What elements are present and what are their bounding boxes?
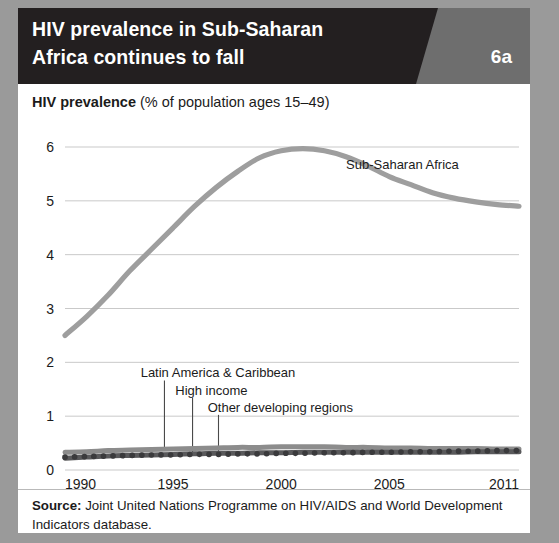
y-tick-label: 5 bbox=[46, 193, 54, 209]
figure-card: HIV prevalence in Sub-Saharan Africa con… bbox=[18, 8, 530, 533]
series-label: Other developing regions bbox=[208, 400, 354, 415]
chart-plot-area: 0123456 19901995200020052011 Sub-Saharan… bbox=[18, 8, 530, 533]
source-text: Joint United Nations Programme on HIV/AI… bbox=[32, 498, 503, 532]
y-tick-label: 3 bbox=[46, 301, 54, 317]
chart-series-labels: Sub-Saharan AfricaOther developing regio… bbox=[141, 157, 460, 415]
y-tick-label: 4 bbox=[46, 247, 54, 263]
y-tick-label: 0 bbox=[46, 462, 54, 478]
series-line bbox=[65, 149, 519, 336]
y-tick-label: 6 bbox=[46, 139, 54, 155]
series-label: Sub-Saharan Africa bbox=[346, 157, 460, 172]
y-tick-label: 1 bbox=[46, 408, 54, 424]
series-label: High income bbox=[175, 383, 247, 398]
series-label: Latin America & Caribbean bbox=[141, 365, 296, 380]
footer-divider bbox=[18, 489, 530, 490]
source-note: Source: Joint United Nations Programme o… bbox=[32, 496, 512, 533]
source-label: Source: bbox=[32, 498, 82, 513]
chart-svg: 0123456 19901995200020052011 Sub-Saharan… bbox=[18, 8, 530, 533]
y-tick-label: 2 bbox=[46, 354, 54, 370]
chart-y-axis-labels: 0123456 bbox=[46, 139, 54, 478]
